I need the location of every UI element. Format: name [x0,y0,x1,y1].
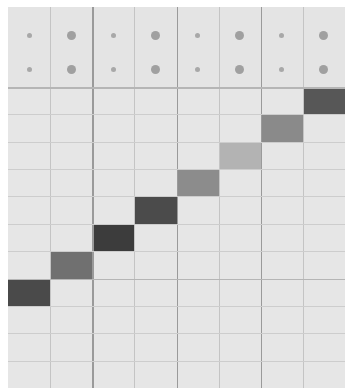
empty-note-cell[interactable] [134,87,176,114]
empty-note-cell[interactable] [134,169,176,196]
empty-note-cell[interactable] [134,142,176,169]
step-indicator-dot[interactable] [151,31,160,40]
empty-note-cell[interactable] [177,306,219,333]
empty-note-cell[interactable] [177,361,219,388]
empty-note-cell[interactable] [8,306,50,333]
active-note-cell[interactable] [219,142,261,169]
empty-note-cell[interactable] [134,279,176,306]
empty-note-cell[interactable] [303,224,345,251]
empty-note-cell[interactable] [261,279,303,306]
step-indicator-dot[interactable] [111,33,116,38]
empty-note-cell[interactable] [50,224,92,251]
empty-note-cell[interactable] [134,361,176,388]
empty-note-cell[interactable] [177,196,219,223]
empty-note-cell[interactable] [8,196,50,223]
empty-note-cell[interactable] [219,361,261,388]
empty-note-cell[interactable] [219,114,261,141]
empty-note-cell[interactable] [261,87,303,114]
empty-note-cell[interactable] [261,251,303,278]
empty-note-cell[interactable] [303,196,345,223]
empty-note-cell[interactable] [177,279,219,306]
empty-note-cell[interactable] [50,87,92,114]
step-indicator-dot[interactable] [235,65,244,74]
empty-note-cell[interactable] [8,251,50,278]
empty-note-cell[interactable] [303,114,345,141]
empty-note-cell[interactable] [261,142,303,169]
empty-note-cell[interactable] [261,196,303,223]
empty-note-cell[interactable] [261,169,303,196]
empty-note-cell[interactable] [303,333,345,360]
empty-note-cell[interactable] [50,333,92,360]
empty-note-cell[interactable] [8,87,50,114]
empty-note-cell[interactable] [8,361,50,388]
step-indicator-dot[interactable] [67,65,76,74]
empty-note-cell[interactable] [134,333,176,360]
empty-note-cell[interactable] [92,279,134,306]
empty-note-cell[interactable] [92,306,134,333]
empty-note-cell[interactable] [177,224,219,251]
empty-note-cell[interactable] [303,361,345,388]
empty-note-cell[interactable] [134,224,176,251]
empty-note-cell[interactable] [219,279,261,306]
empty-note-cell[interactable] [92,196,134,223]
empty-note-cell[interactable] [50,142,92,169]
empty-note-cell[interactable] [261,361,303,388]
empty-note-cell[interactable] [219,196,261,223]
empty-note-cell[interactable] [8,114,50,141]
empty-note-cell[interactable] [50,306,92,333]
empty-note-cell[interactable] [8,333,50,360]
empty-note-cell[interactable] [134,251,176,278]
empty-note-cell[interactable] [50,361,92,388]
step-indicator-dot[interactable] [279,67,284,72]
empty-note-cell[interactable] [177,251,219,278]
step-indicator-dot[interactable] [111,67,116,72]
empty-note-cell[interactable] [177,142,219,169]
step-indicator-dot[interactable] [235,31,244,40]
empty-note-cell[interactable] [50,279,92,306]
empty-note-cell[interactable] [261,224,303,251]
empty-note-cell[interactable] [8,224,50,251]
empty-note-cell[interactable] [219,87,261,114]
active-note-cell[interactable] [92,224,134,251]
empty-note-cell[interactable] [92,169,134,196]
empty-note-cell[interactable] [219,333,261,360]
empty-note-cell[interactable] [303,169,345,196]
empty-note-cell[interactable] [303,142,345,169]
active-note-cell[interactable] [303,87,345,114]
step-indicator-dot[interactable] [27,33,32,38]
empty-note-cell[interactable] [219,306,261,333]
step-indicator-dot[interactable] [195,67,200,72]
active-note-cell[interactable] [50,251,92,278]
empty-note-cell[interactable] [8,142,50,169]
step-indicator-dot[interactable] [279,33,284,38]
empty-note-cell[interactable] [8,169,50,196]
empty-note-cell[interactable] [92,114,134,141]
empty-note-cell[interactable] [134,114,176,141]
empty-note-cell[interactable] [303,251,345,278]
empty-note-cell[interactable] [92,87,134,114]
active-note-cell[interactable] [8,279,50,306]
empty-note-cell[interactable] [219,169,261,196]
step-indicator-dot[interactable] [27,67,32,72]
empty-note-cell[interactable] [92,251,134,278]
empty-note-cell[interactable] [50,196,92,223]
empty-note-cell[interactable] [303,279,345,306]
empty-note-cell[interactable] [92,333,134,360]
step-indicator-dot[interactable] [195,33,200,38]
empty-note-cell[interactable] [177,87,219,114]
empty-note-cell[interactable] [219,251,261,278]
empty-note-cell[interactable] [92,142,134,169]
empty-note-cell[interactable] [177,114,219,141]
empty-note-cell[interactable] [134,306,176,333]
active-note-cell[interactable] [134,196,176,223]
step-indicator-dot[interactable] [151,65,160,74]
active-note-cell[interactable] [261,114,303,141]
empty-note-cell[interactable] [50,114,92,141]
step-indicator-dot[interactable] [319,65,328,74]
empty-note-cell[interactable] [303,306,345,333]
empty-note-cell[interactable] [261,306,303,333]
active-note-cell[interactable] [177,169,219,196]
empty-note-cell[interactable] [219,224,261,251]
empty-note-cell[interactable] [261,333,303,360]
step-indicator-dot[interactable] [67,31,76,40]
